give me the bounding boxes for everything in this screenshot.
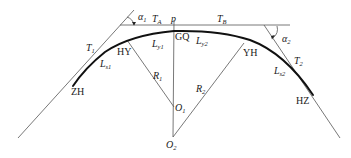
label-hz: HZ: [296, 95, 309, 106]
label-alpha2: α2: [282, 33, 291, 45]
label-zh: ZH: [71, 86, 84, 97]
compound-curve-diagram: α1 TA p TB GQ Ly1 Ly2 T1 HY YH α2 T2 Ls1…: [0, 0, 351, 158]
alpha1-angle-arc: [127, 17, 134, 25]
label-ly2: Ly2: [195, 35, 208, 47]
radius-r2-line: [173, 43, 244, 137]
radius-r1-line: [127, 40, 174, 107]
label-ta: TA: [152, 13, 162, 25]
label-r1: R1: [152, 70, 162, 82]
label-ls1: Ls1: [99, 58, 111, 70]
label-t1: T1: [86, 42, 95, 54]
label-alpha1: α1: [138, 11, 147, 23]
label-t2: T2: [294, 55, 304, 67]
left-tangent-line: [18, 10, 134, 138]
label-gq: GQ: [175, 31, 190, 42]
label-ly1: Ly1: [151, 38, 164, 50]
label-hy: HY: [117, 46, 131, 57]
label-o2: O2: [166, 139, 177, 151]
label-o1: O1: [175, 102, 185, 114]
label-tb: TB: [217, 13, 227, 25]
label-ls2: Ls2: [273, 65, 286, 77]
label-r2: R2: [195, 83, 206, 95]
label-p: p: [170, 13, 176, 24]
label-yh: YH: [243, 47, 257, 58]
vertical-line-p: [173, 20, 174, 137]
